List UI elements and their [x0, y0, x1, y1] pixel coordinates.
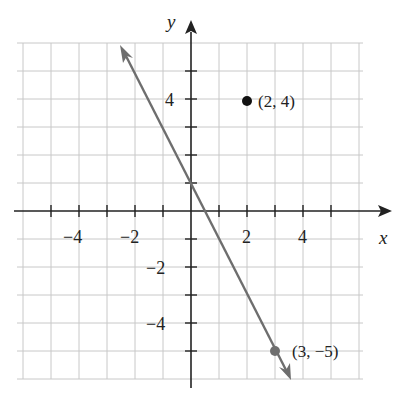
y-axis-label: y	[165, 11, 176, 32]
x-tick-label: −2	[120, 227, 139, 247]
line-arrow-up-icon	[120, 45, 133, 63]
x-tick-label: −4	[63, 227, 82, 247]
y-tick-label: −2	[146, 258, 165, 278]
point-3-neg5	[270, 346, 280, 356]
point-2-4	[242, 96, 252, 106]
point-3-neg5-label: (3, −5)	[292, 342, 338, 361]
y-tick-label: −4	[146, 314, 165, 334]
x-axis-label: x	[378, 227, 388, 248]
x-tick-label: 4	[298, 227, 307, 247]
x-tick-label: 2	[242, 227, 251, 247]
y-tick-label: 4	[165, 90, 174, 110]
coordinate-plane: y x −4 −2 2 4 4 −2 −4 (2, 4) (3, −5)	[0, 0, 395, 396]
y-axis-arrow-icon	[185, 20, 197, 34]
point-2-4-label: (2, 4)	[258, 92, 295, 111]
